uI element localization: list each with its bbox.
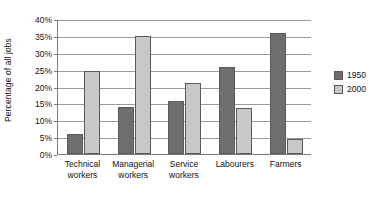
bar-2000-managerial-workers [135,36,151,154]
bar-2000-service-workers [185,83,201,154]
legend-label: 2000 [347,85,366,94]
category-label-line: workers [108,170,159,181]
legend-swatch-1950 [334,71,343,80]
bar-group [210,20,261,154]
bar-group [58,20,109,154]
bar-1950-farmers [270,33,286,154]
y-axis-tick-label: 40% [8,16,52,25]
legend-item-2000[interactable]: 2000 [334,84,382,95]
bar-1950-labourers [219,67,235,154]
y-axis-tick-mark [54,155,57,156]
y-axis-tick-label: 0% [8,151,52,160]
y-axis-tick-label: 20% [8,84,52,93]
bar-group [109,20,160,154]
y-axis-tick-label: 30% [8,50,52,59]
plot-area [57,20,311,155]
category-label-line: Technical [57,159,108,170]
legend-label: 1950 [347,71,366,80]
y-axis-tick-label: 15% [8,100,52,109]
y-axis-tick-label: 35% [8,33,52,42]
chart-legend: 19502000 [334,70,382,98]
legend-swatch-2000 [334,85,343,94]
legend-item-1950[interactable]: 1950 [334,70,382,81]
x-axis-category-label: Managerialworkers [108,159,159,181]
bar-2000-technical-workers [84,71,100,154]
bar-1950-technical-workers [67,134,83,154]
bar-group [261,20,312,154]
x-axis-category-label: Technicalworkers [57,159,108,181]
x-axis-category-label: Labourers [209,159,260,170]
x-axis-category-label: Serviceworkers [159,159,210,181]
bar-1950-service-workers [168,101,184,154]
category-label-line: workers [57,170,108,181]
bars-layer [58,20,311,154]
bar-chart: Percentage of all jobs 0%5%10%15%20%25%3… [0,0,382,198]
y-axis-tick-label: 25% [8,67,52,76]
y-axis-tick-label: 5% [8,134,52,143]
bar-2000-farmers [287,139,303,154]
category-label-line: Farmers [260,159,311,170]
y-axis-tick-label: 10% [8,117,52,126]
category-label-line: workers [159,170,210,181]
x-axis-category-label: Farmers [260,159,311,170]
category-label-line: Labourers [209,159,260,170]
bar-1950-managerial-workers [118,107,134,154]
category-label-line: Service [159,159,210,170]
bar-group [160,20,211,154]
category-label-line: Managerial [108,159,159,170]
bar-2000-labourers [236,108,252,154]
